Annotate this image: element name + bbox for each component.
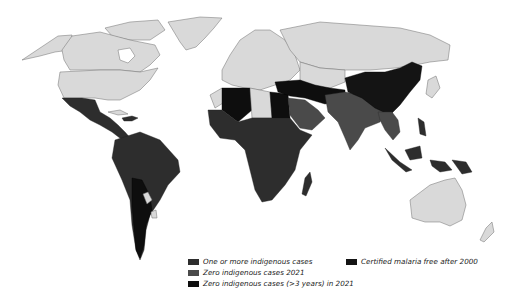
legend-swatch-certified-free [346, 259, 357, 265]
legend-label-certified-free: Certified malaria free after 2000 [361, 256, 478, 267]
region-caribbean [122, 116, 138, 121]
region-philippines [418, 118, 426, 136]
region-madagascar [302, 172, 312, 196]
legend-left: One or more indigenous cases Zero indige… [188, 256, 354, 289]
region-japan [426, 76, 440, 98]
legend-swatch-zero-2021 [188, 270, 199, 276]
legend-item-certified-free: Certified malaria free after 2000 [346, 256, 478, 267]
legend-label-one-or-more-cases: One or more indigenous cases [203, 256, 313, 267]
legend-item-zero-2021: Zero indigenous cases 2021 [188, 267, 354, 278]
region-libya [250, 88, 272, 118]
legend-item-zero-3yrs: Zero indigenous cases (>3 years) in 2021 [188, 278, 354, 289]
legend-label-zero-2021: Zero indigenous cases 2021 [203, 267, 304, 278]
region-cuba [108, 110, 128, 115]
region-usa [58, 68, 158, 100]
region-australia [410, 178, 466, 226]
legend-swatch-one-or-more-cases [188, 259, 199, 265]
region-egypt [270, 92, 290, 118]
region-africa [208, 110, 312, 202]
legend-swatch-zero-3yrs [188, 281, 199, 287]
region-mexico-central-america [62, 98, 132, 142]
legend-right: Certified malaria free after 2000 [346, 256, 478, 267]
region-indonesia [385, 146, 472, 174]
region-se-asia [378, 112, 400, 140]
region-greenland [168, 17, 222, 50]
region-russia [280, 22, 450, 70]
legend-label-zero-3yrs: Zero indigenous cases (>3 years) in 2021 [203, 278, 354, 289]
legend-item-one-or-more-cases: One or more indigenous cases [188, 256, 354, 267]
region-new-zealand [480, 222, 494, 242]
